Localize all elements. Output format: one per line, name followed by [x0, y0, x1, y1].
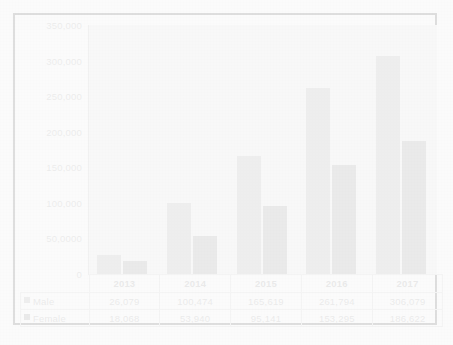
table-corner-cell [21, 275, 90, 293]
bar-group [368, 25, 438, 274]
table-cell-female-2015: 95,141 [231, 310, 302, 327]
y-axis-tick-label: 50,0000 [46, 233, 82, 244]
bar-female-2015[interactable] [263, 206, 287, 274]
table-cell-male-2015: 165,619 [231, 293, 302, 310]
y-axis: 050,0000100,000150,000200,000250,000300,… [20, 20, 86, 274]
bar-male-2015[interactable] [237, 156, 261, 274]
y-axis-tick-label: 250,000 [46, 91, 82, 102]
bar-chart: 050,0000100,000150,000200,000250,000300,… [20, 20, 440, 328]
table-header-year-2013: 2013 [89, 275, 160, 293]
table-row-years: 20132014201520162017 [21, 275, 443, 293]
bar-male-2013[interactable] [97, 255, 121, 274]
bar-group [229, 25, 299, 274]
y-axis-tick-label: 150,000 [46, 162, 82, 173]
legend-item-female[interactable]: Female [21, 310, 90, 327]
bar-male-2017[interactable] [376, 56, 400, 274]
table-cell-female-2013: 18,068 [89, 310, 160, 327]
table-cell-female-2017: 186,622 [372, 310, 443, 327]
y-axis-tick-label: 200,000 [46, 126, 82, 137]
bar-female-2017[interactable] [402, 141, 426, 274]
table-cell-male-2016: 261,794 [301, 293, 372, 310]
legend-label-female: Female [33, 313, 66, 324]
legend-swatch-male-icon [24, 297, 30, 303]
table-row-female: Female 18,06853,94095,141153,295186,622 [21, 310, 443, 327]
table-cell-male-2013: 26,079 [89, 293, 160, 310]
table-row-male: Male 26,079100,474165,619261,794306,079 [21, 293, 443, 310]
table-cell-male-2017: 306,079 [372, 293, 443, 310]
chart-data-table: 20132014201520162017 Male 26,079100,4741… [20, 274, 443, 327]
legend-swatch-female-icon [24, 314, 30, 320]
bar-group [89, 25, 159, 274]
bar-group [298, 25, 368, 274]
table-cell-female-2016: 153,295 [301, 310, 372, 327]
bar-group [159, 25, 229, 274]
legend-item-male[interactable]: Male [21, 293, 90, 310]
plot-area [88, 25, 437, 274]
bar-female-2013[interactable] [123, 261, 147, 274]
bar-male-2014[interactable] [167, 203, 191, 274]
table-cell-female-2014: 53,940 [160, 310, 231, 327]
table-header-year-2014: 2014 [160, 275, 231, 293]
bar-female-2016[interactable] [332, 165, 356, 274]
y-axis-tick-label: 300,000 [46, 55, 82, 66]
table-cell-male-2014: 100,474 [160, 293, 231, 310]
table-header-year-2016: 2016 [301, 275, 372, 293]
table-header-year-2015: 2015 [231, 275, 302, 293]
table-header-year-2017: 2017 [372, 275, 443, 293]
bar-female-2014[interactable] [193, 236, 217, 274]
legend-label-male: Male [33, 296, 54, 307]
bar-male-2016[interactable] [306, 88, 330, 274]
y-axis-tick-label: 350,000 [46, 20, 82, 31]
y-axis-tick-label: 100,000 [46, 197, 82, 208]
